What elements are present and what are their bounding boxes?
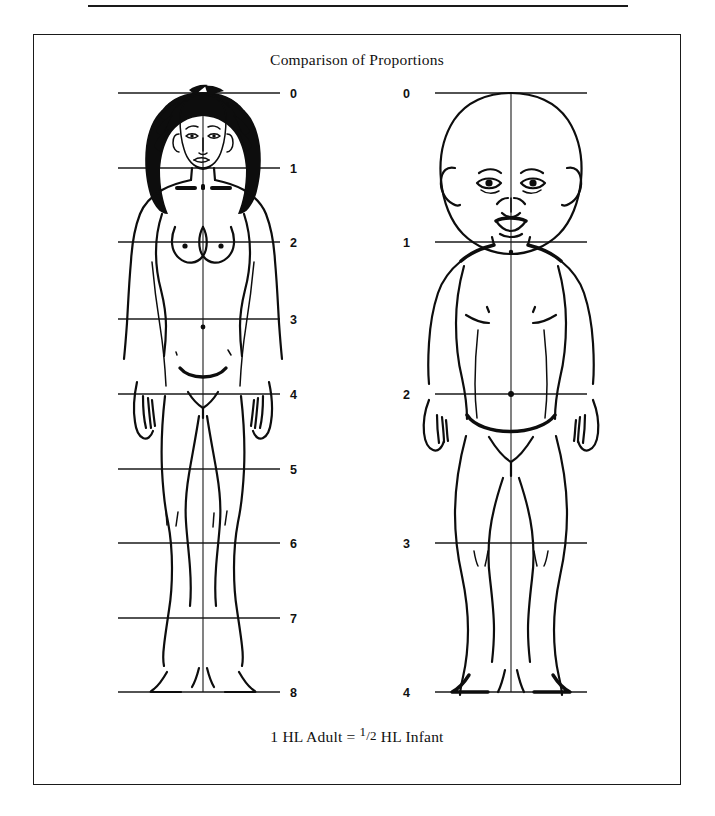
caption-fraction: 1/2 [360,724,377,744]
caption-prefix: 1 HL Adult = [270,728,359,745]
top-rule-divider [88,5,628,7]
fraction-numerator: 1 [360,724,367,739]
figure-caption: 1 HL Adult = 1/2 HL Infant [34,726,680,746]
caption-suffix: HL Infant [377,728,444,745]
page-root: Comparison of Proportions 1 HL Adult = 1… [0,0,715,816]
fraction-denominator: 2 [370,728,377,743]
figure-plate: Comparison of Proportions 1 HL Adult = 1… [33,34,681,785]
page-title: Comparison of Proportions [34,51,680,69]
